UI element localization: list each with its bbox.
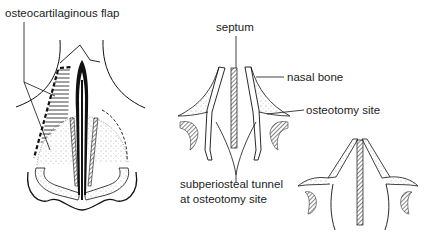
label-at-osteotomy-site: at osteotomy site bbox=[180, 194, 267, 206]
label-septum: septum bbox=[216, 22, 254, 34]
left-panel-frontal-nose bbox=[16, 22, 145, 210]
label-nasal-bone: nasal bone bbox=[287, 72, 343, 84]
diagram-canvas: osteocartilaginous flap septum nasal bon… bbox=[0, 0, 427, 234]
label-osteocartilaginous-flap: osteocartilaginous flap bbox=[5, 8, 119, 20]
label-subperiosteal-tunnel: subperiosteal tunnel bbox=[180, 179, 283, 191]
label-osteotomy-site: osteotomy site bbox=[306, 105, 380, 117]
middle-panel-cross-section bbox=[178, 36, 304, 182]
right-panel-after-osteotomy bbox=[298, 139, 418, 230]
